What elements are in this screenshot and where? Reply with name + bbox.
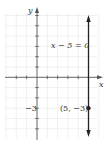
x-axis-label: x [99,80,104,89]
coordinate-graph: x y −3 x − 5 = 0 (5, −3) [0,0,110,145]
y-axis-label: y [27,6,33,15]
grid [5,13,99,138]
x-axis-arrow-icon [97,75,103,79]
point-label: (5, −3) [60,104,88,113]
equation-label: x − 5 = 0 [51,41,89,50]
y-axis-arrow-icon [35,7,39,13]
y-tick-label: −3 [25,104,37,113]
line-up-arrow-icon [86,15,90,22]
y-axis: y −3 [25,6,39,140]
line-down-arrow-icon [86,130,90,137]
